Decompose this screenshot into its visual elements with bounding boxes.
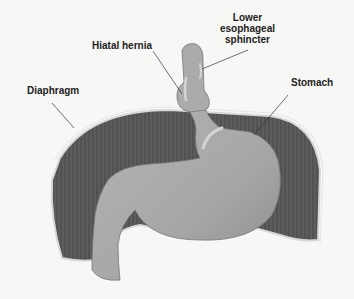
- label-line: Lower: [220, 12, 275, 23]
- label-diaphragm: Diaphragm: [27, 85, 79, 96]
- label-lower-esophageal-sphincter: Lower esophageal sphincter: [220, 12, 275, 45]
- label-line: sphincter: [220, 34, 275, 45]
- label-line: esophageal: [220, 23, 275, 34]
- label-stomach: Stomach: [291, 77, 333, 88]
- label-hiatal-hernia: Hiatal hernia: [92, 40, 152, 51]
- hiatal-hernia-diagram: [0, 0, 354, 299]
